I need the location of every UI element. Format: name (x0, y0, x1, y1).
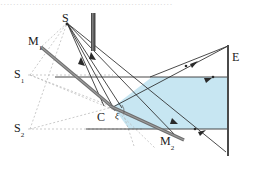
marker-dot-upper-right (185, 65, 188, 68)
label-image-one: S1 (14, 68, 24, 83)
marker-dot-upper-axis (212, 76, 215, 79)
label-mirror-two: M2 (160, 135, 174, 150)
mirror-one-highlight (41, 47, 116, 110)
marker-dot-lower-axis (194, 128, 197, 131)
illuminated-region-fill (113, 77, 228, 129)
label-vertex-c-text: C (97, 110, 105, 124)
label-image-one-subscript: 1 (21, 77, 25, 85)
label-screen-e-text: E (232, 50, 239, 64)
label-image-two-text: S (14, 121, 21, 135)
label-source-s-text: S (62, 11, 69, 25)
label-mirror-two-text: M (160, 134, 171, 148)
label-mirror-one-subscript: 1 (39, 44, 43, 52)
dashed-s-to-lower (41, 23, 67, 47)
optics-diagram-figure: ········································… (0, 0, 253, 169)
barrier-bar-highlight (92, 13, 93, 51)
label-angle-xi: ξ (115, 112, 119, 121)
label-image-one-text: S (14, 67, 21, 81)
label-image-two-subscript: 2 (21, 131, 25, 139)
label-mirror-two-subscript: 2 (171, 144, 175, 152)
label-mirror-one: M1 (28, 35, 42, 50)
label-source-s: S (62, 12, 69, 24)
label-angle-xi-text: ξ (115, 111, 119, 121)
ray-m2-to-screen-lower (150, 46, 228, 77)
label-mirror-one-text: M (28, 34, 39, 48)
label-image-two: S2 (14, 122, 24, 137)
label-vertex-c: C (97, 111, 105, 123)
label-screen-e: E (232, 51, 239, 63)
arrow-ray-mid (89, 52, 96, 60)
ray-s-to-c-mid (67, 23, 113, 107)
arrow-ray-upper (190, 61, 198, 68)
diagram-canvas (0, 0, 253, 169)
